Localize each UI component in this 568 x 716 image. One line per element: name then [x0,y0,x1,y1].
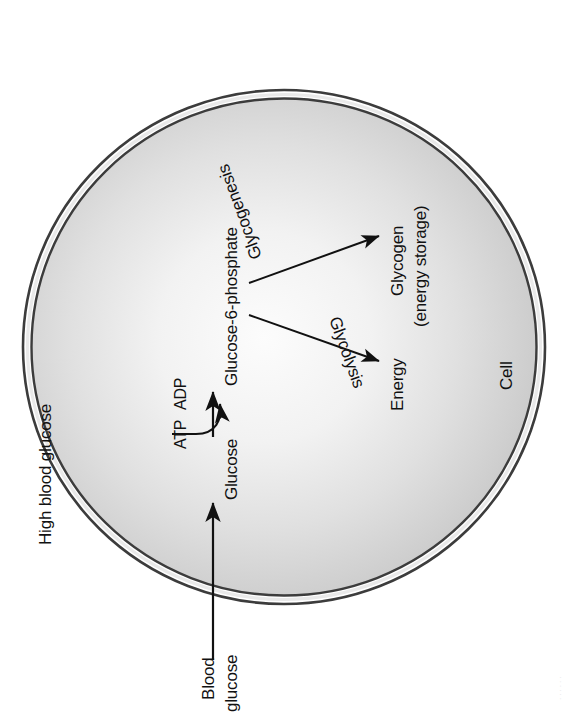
cell-cytoplasm [32,99,537,596]
figure-canvas: High blood glucose Blood glucose Glucose… [0,0,568,716]
node-label-glycogen-sublabel: (energy storage) [411,205,431,327]
cropped-caption-fragment: · · · · · · [556,676,567,700]
label-cell: Cell [497,362,516,391]
page-title-high-blood-glucose: High blood glucose [36,404,55,545]
node-label-blood-glucose-line1: Blood [199,658,219,700]
node-label-glucose: Glucose [222,439,241,500]
node-label-adp: ADP [172,378,190,410]
node-label-energy: Energy [388,358,407,411]
node-label-glucose-6-phosphate: Glucose-6-phosphate [222,227,241,386]
node-label-atp: ATP [172,420,190,449]
node-label-glycogen: Glycogen [388,226,408,296]
node-label-blood-glucose-line2: glucose [222,655,242,712]
cell-diagram-svg [0,0,568,716]
